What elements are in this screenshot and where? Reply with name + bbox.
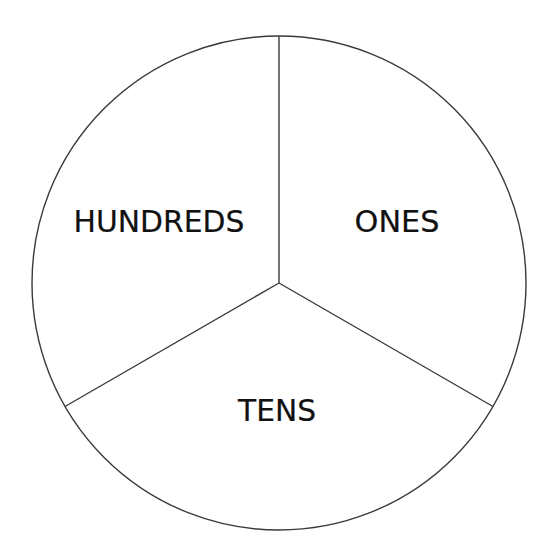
section-label-ones: ONES (355, 204, 440, 239)
section-label-hundreds: HUNDREDS (74, 204, 245, 239)
place-value-diagram: HUNDREDS ONES TENS (0, 0, 554, 559)
section-label-tens: TENS (237, 393, 316, 428)
